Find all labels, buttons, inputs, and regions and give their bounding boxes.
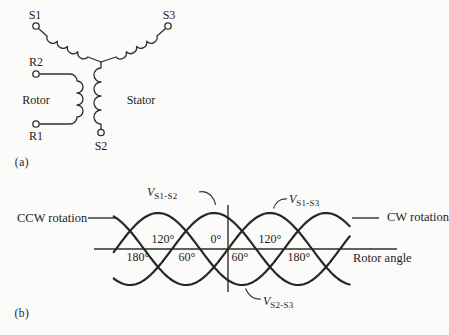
terminal-label-s2: S2 [95,140,108,152]
stator-s1-winding [39,29,101,62]
vs1s3-label: VS1-S3 [289,193,319,205]
synchro-schematic [33,23,171,136]
caption-b: (b) [15,308,30,320]
terminal-s3 [165,23,171,29]
vs1s2-label: VS1-S2 [147,186,177,198]
cw-rotation-label: CW rotation [387,211,449,224]
terminal-label-s3: S3 [163,9,176,21]
rotor-label: Rotor [22,94,49,106]
terminal-s2 [98,129,104,135]
terminal-label-s1: S1 [29,9,42,21]
waveform-axes [88,205,397,292]
terminal-label-r1: R1 [29,130,43,142]
terminal-r1 [33,121,39,127]
stator-s3-winding [101,29,165,62]
angle-label-120-right: 120° [259,233,282,245]
vs1s2-label-sub: S1-S2 [154,191,177,201]
stator-s2-winding [94,62,101,129]
angle-label-0: 0° [211,233,222,245]
angle-label-60-left: 60° [179,251,196,263]
synchro-figure: S1 S3 R2 R1 S2 Rotor Stator (a) CCW rota… [0,0,449,335]
vs1s3-pointer-arrow [274,199,288,209]
terminal-label-r2: R2 [29,56,43,68]
vs1s2-pointer-arrow [199,192,216,205]
angle-label-120-left: 120° [152,233,175,245]
angle-label-180-left: 180° [127,251,150,263]
ccw-rotation-label: CCW rotation [17,212,87,225]
caption-a: (a) [15,157,29,169]
rotor-angle-label: Rotor angle [353,252,412,265]
figure-strokes [0,0,449,335]
terminal-r2 [33,71,39,77]
vs2s3-label: VS2-S3 [263,295,293,307]
stator-label: Stator [127,94,156,106]
angle-label-180-right: 180° [288,251,311,263]
vs1s3-label-sub: S1-S3 [296,198,319,208]
angle-label-60-right: 60° [232,251,249,263]
terminal-s1 [33,23,39,29]
vs2s3-pointer-arrow [246,289,262,300]
vs2s3-label-sub: S2-S3 [270,300,293,310]
